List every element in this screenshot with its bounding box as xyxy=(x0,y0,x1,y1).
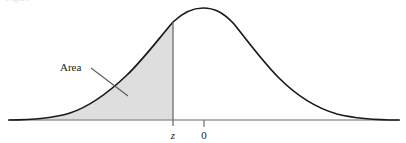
area-annotation-label: Area xyxy=(60,61,81,73)
shaded-area-region xyxy=(10,22,173,120)
axis-tick-label-z: z xyxy=(170,129,176,141)
normal-curve-figure: Figure Area z 0 xyxy=(0,0,406,143)
axis-tick-label-zero: 0 xyxy=(201,129,207,141)
figure-canvas: Area z 0 xyxy=(0,0,406,143)
